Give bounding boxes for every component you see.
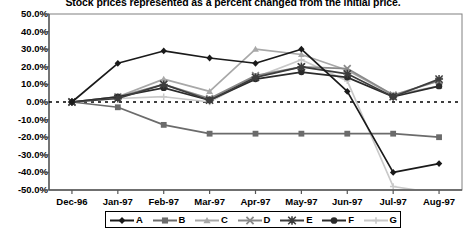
- legend-item-G[interactable]: G: [363, 212, 397, 227]
- x-axis-tick-label: Jul-97: [368, 196, 418, 207]
- legend-marker-circle-icon: [321, 213, 347, 226]
- x-axis-tick-label: Feb-97: [139, 196, 189, 207]
- legend-marker-line-icon: [363, 213, 389, 226]
- legend-label: F: [348, 214, 354, 225]
- legend-item-D[interactable]: D: [237, 212, 271, 227]
- x-axis-tick-label: Jan-97: [93, 196, 143, 207]
- legend-marker-asterisk-icon: [279, 213, 305, 226]
- legend-item-F[interactable]: F: [321, 212, 354, 227]
- legend-item-E[interactable]: E: [279, 212, 312, 227]
- x-axis-tick-label: Aug-97: [414, 196, 464, 207]
- legend-label: D: [264, 214, 271, 225]
- chart-legend: ABCDEFG: [105, 211, 401, 228]
- legend-label: C: [221, 214, 228, 225]
- legend-item-B[interactable]: B: [152, 212, 186, 227]
- legend-marker-triangle-icon: [194, 213, 220, 226]
- legend-label: E: [306, 214, 312, 225]
- stock-price-line-chart: Stock prices represented as a percent ch…: [0, 0, 466, 230]
- x-axis-tick-label: Mar-97: [185, 196, 235, 207]
- plot-area: [0, 0, 466, 210]
- x-axis-tick-label: May-97: [276, 196, 326, 207]
- legend-marker-diamond-icon: [109, 213, 135, 226]
- legend-item-C[interactable]: C: [194, 212, 228, 227]
- x-axis-tick-label: Jun-97: [322, 196, 372, 207]
- legend-marker-square-icon: [152, 213, 178, 226]
- legend-marker-cross-icon: [237, 213, 263, 226]
- legend-label: G: [390, 214, 397, 225]
- legend-item-A[interactable]: A: [109, 212, 143, 227]
- x-axis-tick-label: Apr-97: [231, 196, 281, 207]
- legend-label: A: [136, 214, 143, 225]
- x-axis-tick-label: Dec-96: [47, 196, 97, 207]
- legend-label: B: [179, 214, 186, 225]
